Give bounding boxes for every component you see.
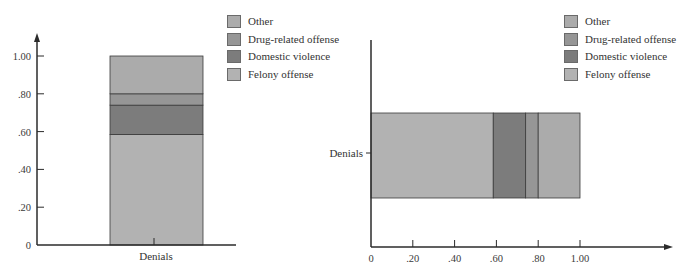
legend-label: Felony offense	[248, 69, 313, 80]
left-bar-segment-felony-offense	[110, 134, 203, 245]
right-x-tick-label: 1.00	[571, 253, 589, 264]
legend-label: Other	[248, 16, 273, 27]
right-legend-item: Felony offense	[564, 66, 676, 84]
left-y-ticks: 0.20.40.60.801.00	[13, 51, 44, 251]
left-category-label: Denials	[139, 250, 173, 262]
left-y-tick-label: 0	[26, 240, 31, 251]
right-legend-item: Drug-related offense	[564, 31, 676, 49]
right-bar-segment-drug-related-offense	[526, 113, 539, 198]
left-legend: OtherDrug-related offenseDomestic violen…	[227, 13, 339, 83]
legend-label: Domestic violence	[585, 51, 667, 62]
left-bar-segment-other	[110, 56, 203, 94]
legend-label: Felony offense	[585, 69, 650, 80]
legend-label: Domestic violence	[248, 51, 330, 62]
left-legend-item: Other	[227, 13, 339, 31]
left-chart: 0.20.40.60.801.00 Denials	[13, 33, 236, 262]
left-y-tick-label: .60	[18, 127, 31, 138]
legend-swatch-icon	[564, 15, 578, 28]
left-legend-item: Domestic violence	[227, 48, 339, 66]
legend-swatch-icon	[227, 50, 241, 63]
legend-swatch-icon	[227, 68, 241, 81]
right-bar-segment-felony-offense	[371, 113, 493, 198]
left-y-tick-label: .80	[18, 89, 31, 100]
left-bar-segment-drug-related-offense	[110, 94, 203, 105]
right-legend-item: Other	[564, 13, 676, 31]
right-legend-item: Domestic violence	[564, 48, 676, 66]
left-y-axis-arrow-icon	[34, 33, 40, 42]
legend-label: Drug-related offense	[585, 34, 676, 45]
right-x-tick-label: .80	[532, 253, 545, 264]
legend-swatch-icon	[564, 33, 578, 46]
right-x-tick-label: .40	[448, 253, 461, 264]
left-y-tick-label: .40	[18, 164, 31, 175]
legend-swatch-icon	[564, 50, 578, 63]
right-category-label: Denials	[329, 147, 363, 159]
right-legend: OtherDrug-related offenseDomestic violen…	[564, 13, 676, 83]
left-y-tick-label: 1.00	[13, 51, 31, 62]
right-x-ticks: 0.20.40.60.801.00	[368, 240, 589, 264]
legend-swatch-icon	[564, 68, 578, 81]
left-legend-item: Drug-related offense	[227, 31, 339, 49]
left-bar	[110, 56, 203, 245]
left-legend-item: Felony offense	[227, 66, 339, 84]
left-bar-segment-domestic-violence	[110, 105, 203, 134]
right-bar	[371, 113, 580, 198]
legend-label: Other	[585, 16, 610, 27]
right-x-tick-label: .20	[406, 253, 419, 264]
right-x-tick-label: .60	[490, 253, 503, 264]
right-x-axis-arrow-icon	[664, 244, 673, 250]
right-bar-segment-other	[538, 113, 580, 198]
legend-swatch-icon	[227, 15, 241, 28]
right-x-tick-label: 0	[368, 253, 373, 264]
left-y-tick-label: .20	[18, 202, 31, 213]
right-bar-segment-domestic-violence	[493, 113, 525, 198]
legend-label: Drug-related offense	[248, 34, 339, 45]
legend-swatch-icon	[227, 33, 241, 46]
